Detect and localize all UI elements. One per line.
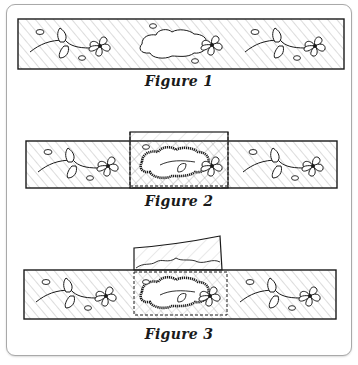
trimmed-patch [134, 236, 222, 270]
figure-1-illustration [18, 19, 344, 69]
repair-diagram [0, 0, 358, 365]
figure-2-caption: Figure 2 [0, 193, 358, 209]
figure-1-caption: Figure 1 [0, 73, 358, 89]
figure-2-illustration [26, 132, 337, 188]
figure-3-illustration [24, 236, 336, 319]
figure-3-caption: Figure 3 [0, 326, 358, 342]
